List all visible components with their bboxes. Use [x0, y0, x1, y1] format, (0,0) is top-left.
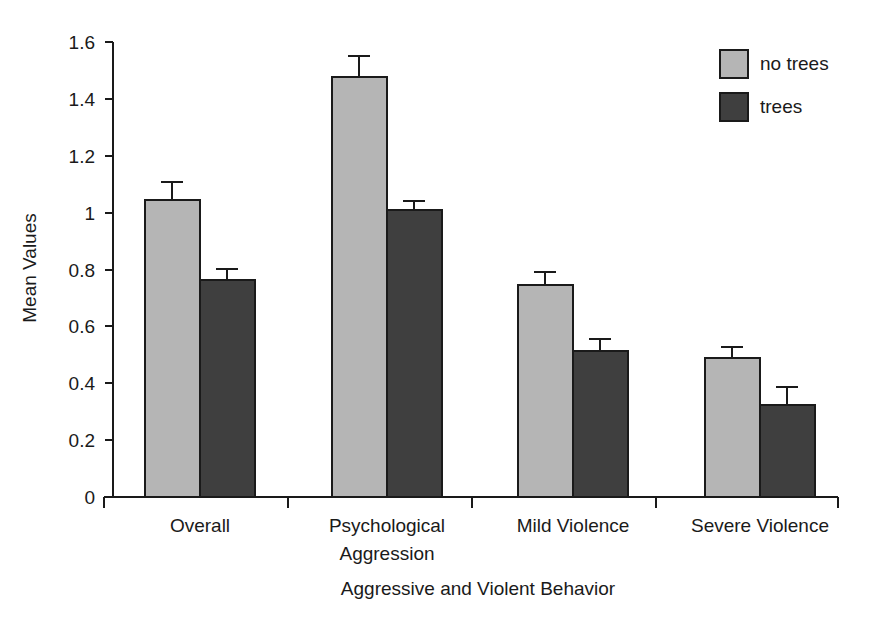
x-axis-title: Aggressive and Violent Behavior	[341, 578, 616, 599]
y-tick-label: 1.4	[69, 89, 96, 110]
category-label-severe-violence: Severe Violence	[691, 515, 829, 536]
y-axis-title: Mean Values	[19, 213, 40, 323]
legend-swatch-no-trees[interactable]	[720, 50, 748, 78]
y-tick-label: 0.4	[69, 373, 96, 394]
y-tick-label: 1.6	[69, 32, 95, 53]
bar-no-trees[interactable]	[332, 77, 387, 497]
y-tick-label: 0	[84, 487, 95, 508]
y-tick-label: 0.6	[69, 316, 95, 337]
bar-trees[interactable]	[573, 351, 628, 497]
chart-figure: 1.6 1.4 1.2 1 0.8 0.6 0.4 0.2 0	[0, 0, 870, 632]
y-tick-label: 1.2	[69, 146, 95, 167]
bar-no-trees[interactable]	[705, 358, 760, 497]
bar-no-trees[interactable]	[145, 200, 200, 497]
bar-trees[interactable]	[387, 210, 442, 497]
bar-no-trees[interactable]	[518, 285, 573, 497]
category-label-mild-violence: Mild Violence	[517, 515, 630, 536]
category-label-psychological-aggression-line1: Psychological	[329, 515, 445, 536]
category-label-psychological-aggression-line2: Aggression	[339, 543, 434, 564]
bar-trees[interactable]	[200, 280, 255, 497]
category-label-overall: Overall	[170, 515, 230, 536]
legend-label-no-trees: no trees	[760, 53, 829, 74]
legend-swatch-trees[interactable]	[720, 93, 748, 121]
bar-trees[interactable]	[760, 405, 815, 497]
y-tick-label: 0.2	[69, 430, 95, 451]
legend-label-trees: trees	[760, 96, 802, 117]
bar-chart-canvas: 1.6 1.4 1.2 1 0.8 0.6 0.4 0.2 0	[0, 0, 870, 632]
y-tick-label: 0.8	[69, 260, 95, 281]
y-tick-label: 1	[84, 203, 95, 224]
